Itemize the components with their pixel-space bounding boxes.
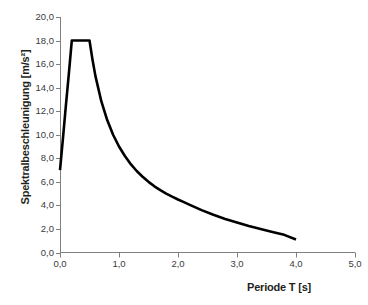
plot-area xyxy=(0,0,368,305)
x-axis-title: Periode T [s] xyxy=(247,281,311,293)
data-series-line xyxy=(60,41,296,240)
spectral-acceleration-chart: Spektralbeschleunigung [m/s²] 0,02,04,06… xyxy=(0,0,368,305)
x-axis-ticks xyxy=(61,253,356,258)
y-axis-ticks xyxy=(56,18,60,254)
